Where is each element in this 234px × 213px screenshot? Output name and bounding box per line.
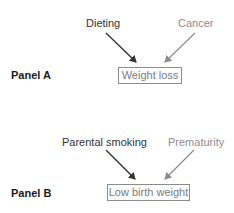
arrow-cancer-to-weight-loss [165,33,195,62]
arrow-dieting-to-weight-loss [106,33,136,62]
arrows-layer [0,0,234,213]
node-weight-loss: Weight loss [118,67,182,84]
node-parental-smoking: Parental smoking [62,136,147,148]
node-dieting: Dieting [86,17,120,29]
panel-b-label: Panel B [11,187,51,199]
node-prematurity: Prematurity [168,136,224,148]
arrow-prematurity-to-low-birth-weight [165,150,194,179]
node-low-birth-weight: Low birth weight [107,184,190,201]
arrow-smoking-to-low-birth-weight [106,150,135,179]
node-cancer: Cancer [178,17,213,29]
panel-a-label: Panel A [11,69,51,81]
